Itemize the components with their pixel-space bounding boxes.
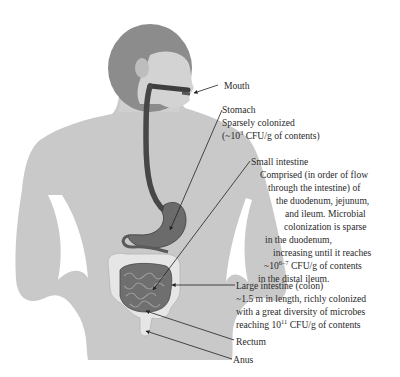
si-line6: in the duodenum,	[0, 233, 400, 246]
li-line3-post: CFU/g of contents	[287, 319, 360, 330]
mouth-title: Mouth	[224, 79, 250, 92]
head	[108, 24, 194, 112]
stomach-line2: (~103 CFU/g of contents)	[222, 129, 320, 142]
rectum-title: Rectum	[236, 335, 266, 348]
si-line3: the duodenum, jejunum,	[0, 194, 400, 207]
stomach-title: Stomach	[222, 103, 320, 116]
stomach-line1: Sparsely colonized	[222, 116, 320, 129]
small-intestine-description: Comprised (in order of flow through the …	[0, 168, 400, 285]
si-line2: through the intestine) of	[0, 181, 400, 194]
large-intestine-line1: ~1.5 m in length, richly colonized	[236, 292, 366, 305]
mouth-pointer	[194, 85, 218, 93]
si-line4: and ileum. Microbial	[0, 207, 400, 220]
large-intestine-line2: with a great diversity of microbes	[236, 305, 366, 318]
label-mouth: Mouth	[224, 79, 250, 92]
label-rectum: Rectum	[236, 335, 266, 348]
li-line3-pre: reaching 10	[236, 319, 281, 330]
si-line8-sup: 6–7	[279, 259, 289, 266]
small-intestine-title: Small intestine	[251, 155, 308, 168]
large-intestine-title: Large intestine (colon)	[236, 279, 366, 292]
label-anus: Anus	[233, 353, 253, 366]
si-line5: colonization is sparse	[0, 220, 400, 233]
stomach-line2-pre: (~10	[222, 130, 240, 141]
stomach-line2-post: CFU/g of contents)	[243, 130, 319, 141]
si-line8-pre: ~10	[264, 260, 279, 271]
si-line8: ~106–7 CFU/g of contents	[0, 259, 400, 272]
si-line8-post: CFU/g of contents	[289, 260, 362, 271]
label-stomach: Stomach Sparsely colonized (~103 CFU/g o…	[222, 103, 320, 142]
si-line7: increasing until it reaches	[0, 246, 400, 259]
label-large-intestine: Large intestine (colon) ~1.5 m in length…	[236, 279, 366, 331]
si-line1: Comprised (in order of flow	[0, 168, 400, 181]
large-intestine-line3: reaching 1011 CFU/g of contents	[236, 318, 366, 331]
anus-title: Anus	[233, 353, 253, 366]
label-small-intestine: Small intestine	[251, 155, 308, 168]
